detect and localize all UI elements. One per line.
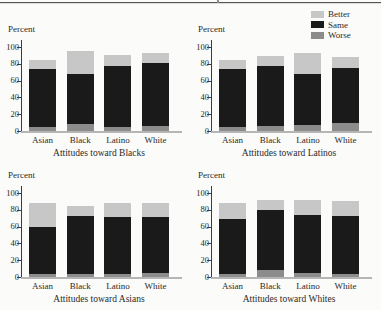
y-axis-line bbox=[21, 40, 22, 132]
segment-same bbox=[29, 69, 56, 127]
y-tick-mark bbox=[17, 193, 21, 194]
x-category-label: Latino bbox=[288, 281, 328, 291]
y-tick-mark bbox=[207, 193, 211, 194]
segment-worse bbox=[29, 274, 56, 277]
segment-better bbox=[219, 203, 246, 219]
segment-better bbox=[142, 53, 169, 63]
y-tick-mark bbox=[207, 227, 211, 228]
segment-better bbox=[104, 203, 131, 217]
segment-worse bbox=[219, 127, 246, 131]
y-tick-mark bbox=[207, 243, 211, 244]
figure: BetterSameWorse Percent020406080100Asian… bbox=[0, 0, 381, 310]
y-tick-mark bbox=[17, 97, 21, 98]
segment-same bbox=[219, 69, 246, 127]
segment-worse bbox=[257, 126, 284, 131]
bar-latino bbox=[104, 203, 131, 277]
segment-same bbox=[294, 74, 321, 125]
y-axis-title: Percent bbox=[8, 24, 35, 34]
y-tick-mark bbox=[207, 97, 211, 98]
legend-swatch-better-icon bbox=[311, 11, 324, 18]
x-category-label: Asian bbox=[213, 281, 253, 291]
segment-better bbox=[332, 57, 359, 68]
x-category-label: Asian bbox=[23, 281, 63, 291]
chart-panel-1: Percent020406080100AsianBlackLatinoWhite… bbox=[6, 24, 192, 164]
segment-better bbox=[142, 203, 169, 216]
segment-better bbox=[219, 60, 246, 69]
page-rule bbox=[0, 2, 381, 3]
segment-worse bbox=[104, 274, 131, 277]
x-category-label: Black bbox=[250, 135, 290, 145]
x-category-label: Black bbox=[60, 135, 100, 145]
chart-title: Attitudes toward Blacks bbox=[19, 148, 179, 159]
y-tick-mark bbox=[17, 260, 21, 261]
x-category-label: Latino bbox=[288, 135, 328, 145]
y-tick-mark bbox=[17, 81, 21, 82]
segment-worse bbox=[104, 127, 131, 131]
x-category-label: Asian bbox=[213, 135, 253, 145]
y-tick-mark bbox=[207, 210, 211, 211]
y-axis-line bbox=[21, 186, 22, 278]
segment-same bbox=[104, 66, 131, 127]
x-category-label: White bbox=[136, 281, 176, 291]
chart-title: Attitudes toward Whites bbox=[209, 294, 369, 305]
y-tick-mark bbox=[17, 210, 21, 211]
segment-worse bbox=[332, 123, 359, 131]
segment-better bbox=[29, 203, 56, 227]
segment-worse bbox=[142, 273, 169, 277]
segment-worse bbox=[29, 127, 56, 131]
y-tick-mark bbox=[17, 227, 21, 228]
segment-worse bbox=[219, 274, 246, 277]
y-tick-mark bbox=[207, 114, 211, 115]
y-tick-mark bbox=[207, 47, 211, 48]
y-axis-title: Percent bbox=[198, 24, 225, 34]
y-axis-title: Percent bbox=[8, 170, 35, 180]
x-category-label: Black bbox=[250, 281, 290, 291]
segment-worse bbox=[67, 124, 94, 131]
bar-asian bbox=[29, 60, 56, 131]
segment-better bbox=[67, 51, 94, 74]
segment-worse bbox=[67, 274, 94, 277]
bar-white bbox=[332, 201, 359, 277]
bar-latino bbox=[104, 55, 131, 131]
x-axis-line bbox=[21, 277, 182, 279]
x-axis-line bbox=[211, 277, 372, 279]
x-category-label: White bbox=[326, 135, 366, 145]
bar-black bbox=[257, 200, 284, 277]
chart-panel-4: Percent020406080100AsianBlackLatinoWhite… bbox=[196, 170, 381, 310]
segment-same bbox=[219, 219, 246, 274]
y-axis-line bbox=[211, 186, 212, 278]
bar-black bbox=[257, 56, 284, 131]
segment-worse bbox=[294, 125, 321, 131]
x-category-label: Latino bbox=[98, 135, 138, 145]
segment-same bbox=[332, 216, 359, 274]
y-axis-line bbox=[211, 40, 212, 132]
segment-better bbox=[257, 200, 284, 210]
chart-title: Attitudes toward Asians bbox=[19, 294, 179, 305]
y-tick-mark bbox=[207, 64, 211, 65]
bar-black bbox=[67, 51, 94, 131]
x-category-label: White bbox=[136, 135, 176, 145]
legend-item: Better bbox=[311, 9, 351, 20]
segment-same bbox=[257, 66, 284, 126]
segment-better bbox=[294, 53, 321, 74]
chart-panel-2: Percent020406080100AsianBlackLatinoWhite… bbox=[196, 24, 381, 164]
page-edge-artifact bbox=[217, 0, 219, 3]
bar-asian bbox=[219, 60, 246, 131]
segment-worse bbox=[142, 126, 169, 131]
segment-same bbox=[67, 74, 94, 124]
legend-label: Better bbox=[328, 9, 350, 19]
segment-worse bbox=[332, 274, 359, 277]
x-axis-line bbox=[211, 131, 372, 133]
x-axis-line bbox=[21, 131, 182, 133]
y-tick-mark bbox=[207, 260, 211, 261]
x-category-label: Black bbox=[60, 281, 100, 291]
segment-worse bbox=[257, 270, 284, 277]
y-tick-mark bbox=[17, 243, 21, 244]
bar-latino bbox=[294, 200, 321, 277]
chart-title: Attitudes toward Latinos bbox=[209, 148, 369, 159]
segment-better bbox=[67, 206, 94, 216]
y-tick-mark bbox=[17, 47, 21, 48]
segment-better bbox=[257, 56, 284, 66]
chart-panel-3: Percent020406080100AsianBlackLatinoWhite… bbox=[6, 170, 192, 310]
segment-same bbox=[67, 216, 94, 274]
